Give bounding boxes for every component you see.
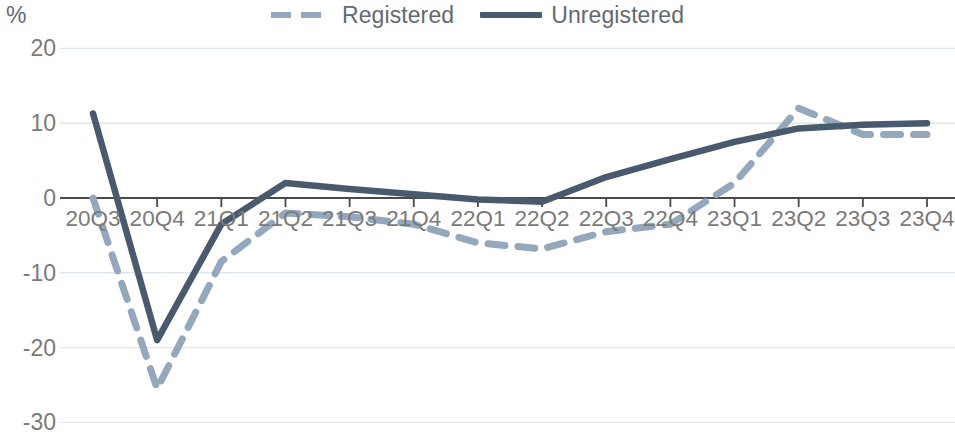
legend-label-unregistered: Unregistered [551,2,684,29]
x-axis-tick-labels: 20Q320Q421Q121Q221Q321Q422Q122Q222Q322Q4… [60,206,955,236]
y-axis-tick-label: -30 [4,409,56,436]
x-axis-tick-label: 22Q3 [579,206,634,232]
legend-item-registered: Registered [271,2,454,29]
x-axis-tick-label: 22Q4 [643,206,698,232]
y-axis-tick-label: 0 [4,185,56,212]
x-axis-tick-label: 23Q1 [707,206,762,232]
y-axis-tick-label: -10 [4,259,56,286]
legend-label-registered: Registered [342,2,454,29]
legend-item-unregistered: Unregistered [480,2,684,29]
y-axis-tick-label: 10 [4,110,56,137]
solid-line-swatch-icon [480,12,542,18]
x-axis-tick-label: 21Q3 [322,206,377,232]
x-axis-tick-label: 21Q1 [194,206,249,232]
series-line-registered [93,108,927,389]
x-axis-tick-label: 23Q2 [771,206,826,232]
x-axis-tick-label: 23Q3 [835,206,890,232]
dashed-line-swatch-icon [271,12,333,18]
x-axis-tick-label: 23Q4 [899,206,954,232]
line-chart: Registered Unregistered % 20100-10-20-30… [0,0,955,436]
x-axis-tick-label: 20Q4 [130,206,185,232]
x-axis-tick-label: 21Q4 [386,206,441,232]
x-axis-tick-label: 21Q2 [258,206,313,232]
y-axis-tick-labels: 20100-10-20-30 [0,0,56,436]
chart-legend: Registered Unregistered [0,0,955,30]
x-axis-tick-label: 22Q2 [515,206,570,232]
x-axis-tick-label: 20Q3 [65,206,120,232]
x-axis-tick-label: 22Q1 [450,206,505,232]
y-axis-tick-label: -20 [4,334,56,361]
y-axis-tick-label: 20 [4,35,56,62]
